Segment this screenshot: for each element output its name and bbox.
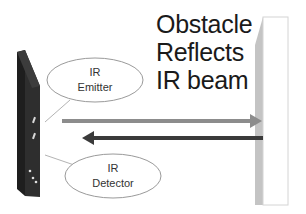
caption-line-1: Obstacle: [156, 10, 252, 38]
detector-label: IR Detector: [78, 161, 148, 191]
emitter-label: IR Emitter: [60, 65, 130, 95]
arrow-left-icon: [82, 131, 94, 145]
obstacle-wall: [255, 17, 288, 205]
reflected-beam-arrow: [82, 131, 263, 145]
sensor-device: [17, 50, 40, 197]
emitter-label-line-2: Emitter: [60, 80, 130, 95]
detector-dot-icon: [32, 177, 35, 180]
obstacle-caption: Obstacle Reflects IR beam: [156, 10, 252, 94]
emitted-beam-arrow: [62, 114, 262, 128]
detector-label-line-2: Detector: [78, 176, 148, 191]
emitter-label-line-1: IR: [60, 65, 130, 80]
detector-dot-icon: [35, 181, 38, 184]
ir-sensor-diagram: Obstacle Reflects IR beam IR Emitter IR …: [0, 0, 306, 214]
wall-bevel: [255, 17, 263, 205]
caption-line-2: Reflects: [156, 38, 252, 66]
device-side-face: [17, 50, 25, 196]
diagram-canvas: [0, 0, 306, 214]
caption-line-3: IR beam: [156, 66, 252, 94]
emitter-connector-line: [45, 100, 70, 122]
detector-label-line-1: IR: [78, 161, 148, 176]
detector-dot-icon: [29, 170, 32, 173]
wall-front-face: [263, 17, 288, 205]
